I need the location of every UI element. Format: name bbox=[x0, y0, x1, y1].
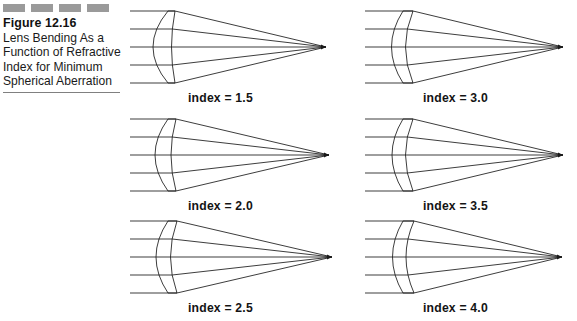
focal-point-marker bbox=[327, 255, 332, 260]
decorative-dash bbox=[59, 4, 81, 12]
focal-point-marker bbox=[558, 45, 563, 50]
panel-index-2-0 bbox=[130, 112, 342, 198]
index-label-2-5: index = 2.5 bbox=[188, 301, 253, 315]
panel-index-4-0 bbox=[365, 214, 577, 300]
index-label-1-5: index = 1.5 bbox=[188, 91, 253, 105]
caption-rule bbox=[3, 92, 120, 93]
panel-index-1-5 bbox=[130, 4, 342, 90]
panel-index-3-5 bbox=[365, 112, 577, 198]
index-label-2: index = 2.0 bbox=[188, 199, 253, 213]
focal-point-marker bbox=[324, 153, 329, 158]
figure-title: Lens Bending As a Function of Refractive… bbox=[0, 30, 121, 89]
focal-point-marker bbox=[557, 255, 562, 260]
panel-index-3-0 bbox=[365, 4, 577, 90]
figure-root: Figure 12.16 Lens Bending As a Function … bbox=[0, 0, 577, 321]
focal-point-marker bbox=[558, 153, 563, 158]
figure-caption-block: Figure 12.16 Lens Bending As a Function … bbox=[0, 0, 126, 89]
index-label-4: index = 4.0 bbox=[423, 301, 488, 315]
figure-number: Figure 12.16 bbox=[0, 15, 126, 30]
decorative-dash-row bbox=[0, 0, 126, 15]
index-label-3-5: index = 3.5 bbox=[423, 199, 488, 213]
panel-index-2-5 bbox=[130, 214, 342, 300]
decorative-dash bbox=[3, 4, 25, 12]
decorative-dash bbox=[87, 4, 109, 12]
index-label-3: index = 3.0 bbox=[423, 91, 488, 105]
focal-point-marker bbox=[321, 45, 326, 50]
decorative-dash bbox=[31, 4, 53, 12]
